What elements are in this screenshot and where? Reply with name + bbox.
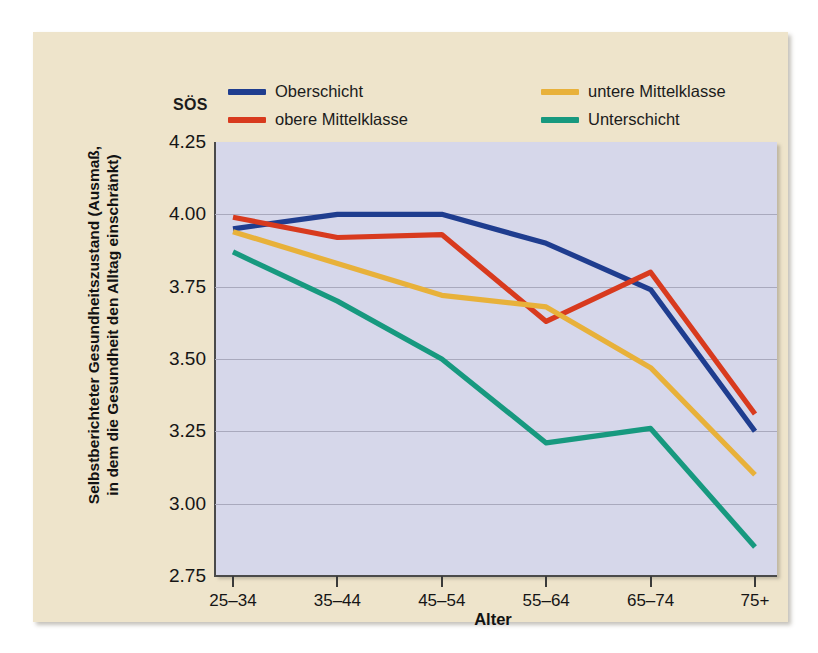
legend-swatch-obere-mittelklasse xyxy=(228,117,266,123)
y-axis-tick-label: 4.25 xyxy=(169,131,206,153)
x-axis-tick xyxy=(650,576,652,587)
y-axis-tick-label: 2.75 xyxy=(169,565,206,587)
y-axis-title-line-1: Selbstberichteter Gesundheitszustand (Au… xyxy=(84,146,103,504)
legend-label-oberschicht: Oberschicht xyxy=(275,82,363,101)
series-lines xyxy=(215,142,777,576)
y-axis-tick-label: 3.00 xyxy=(169,493,206,515)
legend-item-untere-mittelklasse[interactable]: untere Mittelklasse xyxy=(541,82,726,101)
x-axis-title: Alter xyxy=(213,610,773,629)
series-line-unterschicht xyxy=(233,252,755,547)
x-axis-tick xyxy=(336,576,338,587)
legend-item-unterschicht[interactable]: Unterschicht xyxy=(541,110,680,129)
x-axis-tick-label: 45–54 xyxy=(418,591,465,611)
chart-legend: SÖS Oberschicht obere Mittelklasse unter… xyxy=(173,80,793,138)
x-axis-tick-label: 25–34 xyxy=(209,591,256,611)
x-axis-tick-label: 35–44 xyxy=(314,591,361,611)
x-axis-tick-label: 55–64 xyxy=(523,591,570,611)
legend-label-obere-mittelklasse: obere Mittelklasse xyxy=(275,110,408,129)
x-axis-tick xyxy=(232,576,234,587)
legend-item-oberschicht[interactable]: Oberschicht xyxy=(228,82,363,101)
plot-area: 4.254.003.753.503.253.002.75 25–3435–444… xyxy=(215,142,777,576)
x-axis-tick xyxy=(441,576,443,587)
x-axis-tick-label: 75+ xyxy=(741,591,770,611)
legend-item-obere-mittelklasse[interactable]: obere Mittelklasse xyxy=(228,110,408,129)
x-axis-tick xyxy=(754,576,756,587)
y-axis-tick-label: 3.75 xyxy=(169,276,206,298)
legend-label-untere-mittelklasse: untere Mittelklasse xyxy=(588,82,726,101)
legend-title: SÖS xyxy=(173,96,208,114)
chart-figure: SÖS Oberschicht obere Mittelklasse unter… xyxy=(33,32,788,622)
x-axis-tick xyxy=(545,576,547,587)
legend-swatch-oberschicht xyxy=(228,89,266,95)
y-axis-title-line-2: in dem die Gesundheit den Alltag einschr… xyxy=(103,146,122,504)
legend-label-unterschicht: Unterschicht xyxy=(588,110,680,129)
x-axis-tick-label: 65–74 xyxy=(627,591,674,611)
legend-swatch-untere-mittelklasse xyxy=(541,89,579,95)
legend-swatch-unterschicht xyxy=(541,117,579,123)
series-line-untere-mittelklasse xyxy=(233,232,755,475)
y-axis-tick-label: 4.00 xyxy=(169,203,206,225)
series-line-obere-mittelklasse xyxy=(233,217,755,414)
y-axis-tick-label: 3.25 xyxy=(169,420,206,442)
y-axis-title: Selbstberichteter Gesundheitszustand (Au… xyxy=(71,30,135,620)
y-axis-tick-label: 3.50 xyxy=(169,348,206,370)
